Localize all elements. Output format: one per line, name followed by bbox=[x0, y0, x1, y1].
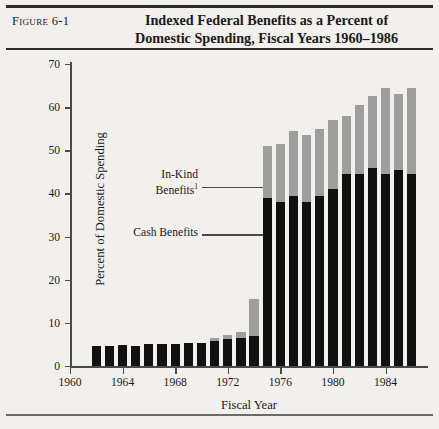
x-axis-tick bbox=[175, 367, 176, 374]
bar-segment-in-kind-benefits bbox=[407, 88, 416, 174]
figure-title-line-2: Domestic Spending, Fiscal Years 1960–198… bbox=[104, 29, 429, 47]
bar-segment-cash-benefits bbox=[210, 341, 219, 366]
bar-segment-cash-benefits bbox=[249, 336, 258, 366]
bar-segment-cash-benefits bbox=[368, 168, 377, 366]
bar-1977 bbox=[289, 131, 298, 366]
y-axis-tick-label: 20 bbox=[30, 273, 60, 286]
bar-1971 bbox=[210, 338, 219, 366]
bar-1974 bbox=[249, 299, 258, 366]
y-axis-tick bbox=[65, 366, 72, 367]
y-axis-tick bbox=[65, 323, 72, 324]
footnote-marker: 1 bbox=[194, 182, 198, 191]
annotation-in-kind-line-1: In-Kind bbox=[110, 168, 198, 182]
bar-segment-cash-benefits bbox=[197, 343, 206, 366]
y-axis-tick-label: 10 bbox=[30, 316, 60, 329]
bar-segment-in-kind-benefits bbox=[263, 146, 272, 198]
bar-1983 bbox=[368, 96, 377, 366]
bar-1970 bbox=[197, 343, 206, 366]
y-axis-tick bbox=[65, 64, 72, 65]
bar-segment-cash-benefits bbox=[302, 202, 311, 366]
x-axis-tick-label: 1964 bbox=[111, 376, 134, 389]
x-axis-tick-label: 1980 bbox=[321, 376, 344, 389]
bar-segment-cash-benefits bbox=[289, 196, 298, 366]
plot-area: Percent of Domestic Spending In-Kind Ben… bbox=[70, 64, 425, 366]
annotation-leader-in-kind bbox=[202, 187, 263, 188]
x-axis-tick bbox=[333, 367, 334, 374]
y-axis-tick-labels: 010203040506070 bbox=[30, 64, 60, 366]
bar-segment-cash-benefits bbox=[407, 174, 416, 366]
annotation-in-kind-benefits: In-Kind Benefits1 bbox=[110, 168, 198, 199]
bottom-rule bbox=[6, 414, 433, 416]
bar-1967 bbox=[157, 344, 166, 366]
bar-segment-in-kind-benefits bbox=[223, 335, 232, 340]
bar-segment-in-kind-benefits bbox=[328, 120, 337, 189]
figure-page: Figure 6-1 Indexed Federal Benefits as a… bbox=[0, 0, 439, 429]
bar-1972 bbox=[223, 335, 232, 366]
bar-1980 bbox=[328, 120, 337, 366]
bar-segment-cash-benefits bbox=[144, 344, 153, 366]
y-axis-tick bbox=[65, 193, 72, 194]
annotation-leader-cash bbox=[202, 234, 263, 235]
y-axis-tick-label: 70 bbox=[30, 58, 60, 71]
bar-segment-cash-benefits bbox=[184, 343, 193, 366]
bar-segment-in-kind-benefits bbox=[355, 105, 364, 174]
annotation-cash-benefits: Cash Benefits bbox=[94, 226, 198, 240]
bar-segment-in-kind-benefits bbox=[210, 338, 219, 341]
bar-segment-cash-benefits bbox=[171, 344, 180, 366]
x-axis-tick-label: 1968 bbox=[164, 376, 187, 389]
bar-1962 bbox=[92, 346, 101, 366]
bar-segment-in-kind-benefits bbox=[315, 129, 324, 196]
y-axis-tick-label: 30 bbox=[30, 230, 60, 243]
top-rule bbox=[6, 5, 433, 8]
x-axis-tick-label: 1984 bbox=[374, 376, 397, 389]
bar-segment-cash-benefits bbox=[315, 196, 324, 366]
y-axis-tick-label: 50 bbox=[30, 144, 60, 157]
bar-1984 bbox=[381, 88, 390, 366]
bar-1982 bbox=[355, 105, 364, 366]
bar-segment-in-kind-benefits bbox=[236, 332, 245, 338]
y-axis-tick bbox=[65, 280, 72, 281]
bar-segment-cash-benefits bbox=[328, 189, 337, 366]
bar-segment-in-kind-benefits bbox=[302, 135, 311, 202]
x-axis-tick bbox=[123, 367, 124, 374]
bar-segment-in-kind-benefits bbox=[289, 131, 298, 196]
bar-1964 bbox=[118, 345, 127, 366]
bar-segment-cash-benefits bbox=[263, 198, 272, 366]
x-axis-tick bbox=[70, 367, 71, 374]
bar-segment-cash-benefits bbox=[118, 345, 127, 366]
x-axis-tick bbox=[228, 367, 229, 374]
bar-1981 bbox=[342, 116, 351, 366]
bar-1965 bbox=[131, 346, 140, 366]
bar-segment-cash-benefits bbox=[223, 339, 232, 366]
figure-title-line-1: Indexed Federal Benefits as a Percent of bbox=[104, 11, 429, 29]
bar-segment-cash-benefits bbox=[105, 346, 114, 366]
bar-segment-in-kind-benefits bbox=[368, 96, 377, 167]
y-axis-tick bbox=[65, 107, 72, 108]
y-axis-tick bbox=[65, 237, 72, 238]
x-axis-tick-label: 1960 bbox=[58, 376, 81, 389]
x-axis-tick bbox=[386, 367, 387, 374]
bar-1969 bbox=[184, 343, 193, 366]
y-axis-tick-label: 0 bbox=[30, 360, 60, 373]
bar-segment-cash-benefits bbox=[342, 174, 351, 366]
title-rule bbox=[6, 48, 433, 50]
bar-1978 bbox=[302, 135, 311, 366]
bar-1975 bbox=[263, 146, 272, 366]
y-axis-title: Percent of Domestic Spending bbox=[93, 132, 108, 286]
bar-1968 bbox=[171, 344, 180, 366]
bar-1985 bbox=[394, 94, 403, 366]
bar-segment-in-kind-benefits bbox=[342, 116, 351, 174]
x-axis-title: Fiscal Year bbox=[70, 398, 428, 413]
bar-segment-cash-benefits bbox=[276, 202, 285, 366]
bar-1963 bbox=[105, 346, 114, 366]
bar-1979 bbox=[315, 129, 324, 366]
bar-segment-cash-benefits bbox=[355, 174, 364, 366]
bar-segment-cash-benefits bbox=[157, 344, 166, 366]
y-axis-tick-label: 40 bbox=[30, 187, 60, 200]
bar-1973 bbox=[236, 332, 245, 366]
x-axis-tick-label: 1976 bbox=[269, 376, 292, 389]
x-axis-tick-labels: 1960196419681972197619801984 bbox=[70, 367, 428, 391]
bar-1976 bbox=[276, 144, 285, 366]
figure-title: Indexed Federal Benefits as a Percent of… bbox=[104, 11, 429, 48]
y-axis-tick bbox=[65, 150, 72, 151]
